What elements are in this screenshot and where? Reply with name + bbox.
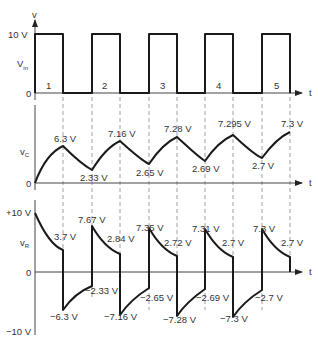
resistor-panel: +10 V 0 −10 V vR t 7.67 V 7.35 V 7.31 V … [6,200,312,337]
neg-peak-label: −7.28 V [163,314,197,325]
peak-label: 7.3 V [281,118,304,129]
ylabel: Vin [17,58,28,71]
trough-label: 2.69 V [192,163,220,174]
pos-end-label: 3.7 V [54,231,77,242]
pulse-number: 2 [102,80,107,91]
pulse-number: 4 [216,80,221,91]
pulse-number: 5 [274,80,279,91]
pos-end-label: 2.72 V [164,237,192,248]
ytick-top: +10 V [6,207,32,218]
neg-end-label: −2.33 V [85,285,119,296]
rc-waveform-diagram: v 10 V 0 Vin t 1 2 3 4 5 0 vC t 6.3 V 7.… [0,0,318,342]
ytick-zero: 0 [26,178,31,189]
neg-end-label: −2.69 V [196,292,230,303]
peak-label: 7.295 V [218,118,251,129]
pos-peak-label: 7.35 V [136,222,164,233]
ylabel: vR [20,237,30,249]
trough-label: 2.65 V [136,167,164,178]
xlabel: t [309,177,312,188]
pos-peak-label: 7.67 V [78,214,106,225]
ytick-zero: 0 [26,88,31,99]
ylabel: vC [20,146,30,158]
peak-label: 7.16 V [108,128,136,139]
input-panel: v 10 V 0 Vin t 1 2 3 4 5 [8,9,312,100]
peak-label: 6.3 V [54,133,77,144]
xlabel: t [309,87,312,98]
trough-label: 2.33 V [80,172,108,183]
xlabel: t [309,266,312,277]
capacitor-panel: 0 vC t 6.3 V 7.16 V 7.28 V 7.295 V 7.3 V… [20,105,312,190]
pulse-number: 1 [46,80,51,91]
pos-end-label: 2.7 V [222,237,245,248]
peak-label: 7.28 V [164,123,192,134]
axis-top-label: v [32,9,37,20]
ytick-top: 10 V [8,29,28,40]
neg-end-label: −2.65 V [140,292,174,303]
pos-end-label: 2.7 V [281,237,304,248]
neg-end-label: −2.7 V [255,292,283,303]
pos-end-label: 2.84 V [107,233,135,244]
neg-peak-label: −7.3 V [220,313,248,324]
ytick-zero: 0 [26,267,31,278]
pulse-number: 3 [160,80,165,91]
neg-peak-label: −6.3 V [50,311,78,322]
pos-peak-label: 7.3 V [253,223,276,234]
trough-label: 2.7 V [252,160,275,171]
ytick-bottom: −10 V [6,326,32,337]
neg-peak-label: −7.16 V [104,311,138,322]
pos-peak-label: 7.31 V [192,223,220,234]
